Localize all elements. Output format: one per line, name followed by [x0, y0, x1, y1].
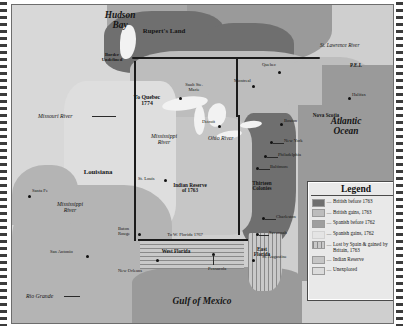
proclamation-line-appalachian [238, 115, 240, 235]
legend-item-spanish-gains-1762: — Spanish gains, 1762 [312, 230, 394, 239]
leader-missouri [92, 116, 116, 117]
label-west-florida: West Florida [162, 249, 191, 254]
label-indian-reserve-1763: Indian Reserve of 1763 [173, 183, 207, 194]
legend-label: Spanish gains, 1762 [333, 230, 374, 236]
label-missouri-river: Missouri River [38, 113, 73, 119]
legend-item-british-gains-1763: — British gains, 1763 [312, 209, 394, 218]
label-atlantic-ocean: Atlantic Ocean [331, 117, 362, 137]
legend-dash-icon: — [327, 241, 332, 248]
label-gulf-of-mexico: Gulf of Mexico [173, 297, 232, 307]
dot-st-augustine [252, 259, 255, 262]
label-montreal: Montreal [234, 79, 251, 84]
legend-box: Legend — British before 1763 — British g… [307, 181, 394, 301]
leader-baltimore [259, 169, 270, 170]
label-charleston: Charleston [276, 215, 296, 220]
label-rio-grande: Rio Grande [26, 293, 53, 299]
dot-quebec [278, 71, 281, 74]
label-savannah: Savannah [269, 231, 287, 236]
label-halifax: Halifax [352, 93, 366, 98]
legend-label: Unexplored [333, 266, 357, 272]
legend-item-lost-by-spain-gained-by-britain-1763: — Lost by Spain & gained by Britain, 176… [312, 241, 394, 254]
label-boston: Boston [284, 119, 297, 124]
legend-swatch [312, 231, 325, 239]
label-detroit: Detroit [202, 120, 215, 125]
label-quebec: Quebec [262, 63, 276, 68]
legend-dash-icon: — [327, 266, 332, 273]
leader-rio-grande [64, 296, 80, 297]
legend-dash-icon: — [327, 198, 332, 205]
label-new-york: New York [284, 139, 303, 144]
scan-edge-right [396, 0, 403, 326]
label-pei: P.E.I. [350, 63, 362, 68]
dot-boston [280, 123, 283, 126]
screenshot-root: Hudson Bay Atlantic Ocean Gulf of Mexico… [0, 0, 403, 326]
florida-boundary-north [138, 239, 248, 241]
label-baton-rouge: Baton Rouge [118, 227, 130, 237]
label-to-quebec-1774: To Quebec 1774 [134, 94, 160, 106]
legend-swatch [312, 241, 325, 249]
dot-st-louis [164, 179, 167, 182]
scan-edge-left [0, 0, 7, 326]
label-ohio-river: Ohio River [208, 135, 234, 141]
legend-label: Lost by Spain & gained by Britain, 1763 [333, 241, 394, 254]
label-mississippi-river-south: Mississippi River [57, 201, 83, 213]
label-nova-scotia: Nova Scotia [313, 113, 339, 118]
legend-dash-icon: — [327, 256, 332, 263]
region-spanish-southwest [12, 165, 78, 225]
dot-san-antonio [86, 255, 89, 258]
leader-pensacola [213, 255, 214, 265]
label-santa-fe: Santa Fe [32, 189, 48, 194]
legend-item-unexplored: — Unexplored [312, 266, 394, 275]
label-pensacola: Pensacola [208, 267, 226, 272]
legend-label: British before 1763 [333, 198, 373, 204]
legend-label: Indian Reserve [333, 256, 364, 262]
region-east-florida [248, 233, 282, 291]
legend-swatch [312, 220, 325, 228]
label-sault-ste-marie: Sault Ste. Marie [185, 83, 203, 93]
legend-item-spanish-before-1762: — Spanish before 1762 [312, 219, 394, 228]
label-border-undefined: Border Undefined [102, 53, 122, 63]
legend-divider [311, 195, 394, 196]
dot-santa-fe [28, 195, 31, 198]
historical-map: Hudson Bay Atlantic Ocean Gulf of Mexico… [11, 4, 394, 324]
label-mississippi-river-north: Mississippi River [151, 133, 177, 145]
mississippi-boundary [134, 61, 136, 241]
dot-halifax [348, 97, 351, 100]
label-hudson-bay: Hudson Bay [105, 11, 136, 31]
label-louisiana: Louisiana [84, 168, 113, 175]
label-thirteen-colonies: Thirteen Colonies [252, 181, 271, 192]
label-philadelphia: Philadelphia [278, 153, 301, 158]
legend-swatch [312, 267, 325, 275]
label-ruperts-land: Rupert's Land [143, 27, 186, 34]
dot-new-orleans [156, 259, 159, 262]
legend-label: British gains, 1763 [333, 209, 372, 215]
label-san-antonio: San Antonio [50, 250, 73, 255]
proclamation-line-north [132, 57, 320, 59]
label-st-lawrence-river: St. Lawrence River [320, 43, 359, 48]
label-baltimore: Baltimore [270, 165, 288, 170]
legend-label: Spanish before 1762 [333, 219, 375, 225]
leader-philadelphia [267, 157, 278, 158]
dot-baton-rouge [138, 233, 141, 236]
proclamation-line-east [236, 59, 238, 117]
legend-dash-icon: — [327, 209, 332, 216]
label-to-w-florida-1767: To W. Florida 1767 [167, 233, 203, 238]
legend-swatch [312, 209, 325, 217]
label-new-orleans: New Orleans [118, 269, 142, 274]
legend-title: Legend [308, 184, 394, 194]
region-west-florida [140, 241, 244, 269]
leader-savannah [259, 235, 269, 236]
legend-swatch [312, 199, 325, 207]
legend-dash-icon: — [327, 219, 332, 226]
dot-montreal [252, 85, 255, 88]
dot-sault-ste-marie [179, 97, 182, 100]
dot-detroit [218, 125, 221, 128]
legend-item-british-before-1763: — British before 1763 [312, 198, 394, 207]
legend-item-indian-reserve: — Indian Reserve [312, 256, 394, 265]
legend-swatch [312, 256, 325, 264]
legend-dash-icon: — [327, 230, 332, 237]
label-st-augustine: St. Augustine [262, 255, 287, 260]
leader-new-york [273, 143, 284, 144]
leader-charleston [265, 219, 276, 220]
label-st-louis: St. Louis [138, 177, 155, 182]
